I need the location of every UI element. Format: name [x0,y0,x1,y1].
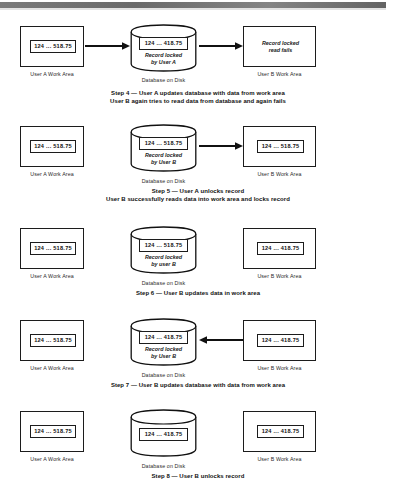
step-caption-line-1: Step 7 — User B updates database with da… [0,381,396,389]
user-b-work-area-box: 124 ... 418.75 [243,320,316,361]
database-on-disk-label: Database on Disk [130,280,197,286]
database-on-disk-cylinder: 124 ... 418.75 Record locked by User B [130,318,197,366]
user-b-work-area-label: User B Work Area [243,171,316,177]
user-a-work-area-label: User A Work Area [20,365,84,371]
user-b-work-area-box: 124 ... 518.75 [243,126,316,167]
database-on-disk-label: Database on Disk [130,372,197,378]
user-a-work-area-box: 124 ... 518.75 [20,320,84,361]
record-lock-note-line-2: by user B [151,261,176,267]
record-lock-note: Record locked by User B [130,346,197,359]
step-caption: Step 7 — User B updates database with da… [0,381,396,389]
user-a-work-area-box: 124 ... 518.75 [20,228,84,269]
database-on-disk-cylinder: 124 ... 518.75 Record locked by user B [130,226,197,274]
record-value-chip: 124 ... 418.75 [139,428,188,441]
user-a-work-area-label: User A Work Area [20,456,84,462]
diagram-step-8: 124 ... 518.75 User A Work Area 124 ... … [0,0,396,90]
user-a-work-area-label: User A Work Area [20,171,84,177]
record-value-chip: 124 ... 518.75 [139,137,188,150]
record-value-chip: 124 ... 518.75 [30,140,76,153]
record-lock-note-line-2: by User B [151,159,176,165]
step-caption-line-1: Step 5 — User A unlocks record [0,187,396,195]
step-caption: Step 8 — User B unlocks record [0,472,396,480]
user-b-work-area-box: 124 ... 418.75 [243,411,316,452]
user-a-work-area-label: User A Work Area [20,273,84,279]
record-lock-note-line-1: Record locked [145,346,182,352]
database-on-disk-label: Database on Disk [130,463,197,469]
record-lock-note-line-1: Record locked [145,152,182,158]
record-lock-note: Record locked by user B [130,254,197,267]
record-value-chip: 124 ... 518.75 [139,239,188,252]
user-a-work-area-box: 124 ... 518.75 [20,126,84,167]
arrow-database-to-work-area-b [199,142,243,150]
record-value-chip: 124 ... 518.75 [30,334,76,347]
step-caption: Step 6 — User B updates data in work are… [0,289,396,297]
step-caption-line-2: User B successfully reads data into work… [0,195,396,203]
record-value-chip: 124 ... 418.75 [257,334,304,347]
user-b-work-area-box: 124 ... 418.75 [243,228,316,269]
database-on-disk-label: Database on Disk [130,178,197,184]
user-b-work-area-label: User B Work Area [243,365,316,371]
step-caption-line-1: Step 6 — User B updates data in work are… [0,289,396,297]
user-b-work-area-label: User B Work Area [243,273,316,279]
database-on-disk-cylinder: 124 ... 518.75 Record locked by User B [130,124,197,172]
record-value-chip: 124 ... 418.75 [257,425,304,438]
arrow-work-area-b-to-database [199,336,243,344]
record-value-chip: 124 ... 518.75 [257,140,304,153]
user-a-work-area-box: 124 ... 518.75 [20,411,84,452]
record-value-chip: 124 ... 518.75 [30,425,76,438]
database-on-disk-cylinder: 124 ... 418.75 [130,409,197,457]
record-value-chip: 124 ... 418.75 [257,242,304,255]
record-lock-note-line-2: by User B [151,353,176,359]
record-lock-note: Record locked by User B [130,152,197,165]
record-lock-note-line-1: Record locked [145,254,182,260]
record-value-chip: 124 ... 418.75 [139,331,188,344]
step-caption: Step 5 — User A unlocks record User B su… [0,187,396,203]
step-caption-line-1: Step 8 — User B unlocks record [0,472,396,480]
user-b-work-area-label: User B Work Area [243,456,316,462]
scanned-page: 124 ... 518.75 User A Work Area 124 ... … [0,0,396,484]
record-value-chip: 124 ... 518.75 [30,242,76,255]
